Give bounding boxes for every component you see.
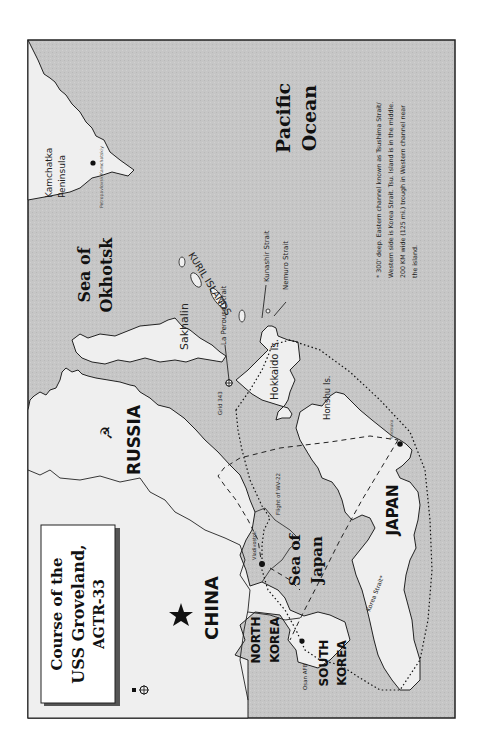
title-line-2: USS Groveland, xyxy=(69,544,88,683)
title-line-1: Course of the xyxy=(48,557,66,670)
label-sea-of-okhotsk-2: Okhotsk xyxy=(97,237,116,313)
label-grid-343: Grid 343 xyxy=(217,391,223,415)
label-osan-afb: Osan AFB xyxy=(302,663,308,690)
label-pacific-ocean-2: Ocean xyxy=(298,85,320,152)
label-kamchatka-2: Peninsula xyxy=(57,155,67,198)
label-honshu: Honshu Is. xyxy=(322,375,332,420)
footnote-line-4: the island. xyxy=(411,245,418,278)
label-south-korea-1: SOUTH xyxy=(317,640,331,687)
label-hokkaido: Hokkaido Is. xyxy=(269,339,280,400)
label-pacific-ocean-1: Pacific xyxy=(272,83,294,153)
label-north-korea-1: NORTH xyxy=(249,616,263,663)
label-vladivostok: Vladivostok xyxy=(251,531,257,560)
title-line-3: AGTR-33 xyxy=(91,579,107,650)
yokosuka-dot xyxy=(397,441,403,447)
label-sea-of-okhotsk-1: Sea of xyxy=(75,246,94,302)
label-kamchatka-1: Kamchatka xyxy=(44,148,54,198)
label-sea-of-japan-1: Sea of xyxy=(286,533,304,586)
label-north-korea-2: KOREA xyxy=(268,616,282,662)
label-sea-of-japan-2: Japan xyxy=(308,536,326,586)
vladivostok-dot xyxy=(259,561,265,567)
footnote-line-1: * 300' deep. Eastern channel known as Ts… xyxy=(375,102,383,278)
label-nemuro-strait: Nemuro Strait xyxy=(282,241,290,290)
label-kunashir-strait: Kunashir Strait xyxy=(263,230,271,282)
label-china: CHINA xyxy=(201,576,222,640)
hammer-sickle-icon: ☭ xyxy=(97,426,116,440)
label-flight-wv22: Flight of WV-22 xyxy=(275,473,282,515)
label-south-korea-2: KOREA xyxy=(335,639,349,685)
footnote-line-2: Western side is Korea Strait. Tsu. Islan… xyxy=(387,102,394,278)
label-sakhalin: Sakhalin xyxy=(178,303,191,350)
label-japan: JAPAN xyxy=(384,485,402,537)
label-yokosuka: Yokosuka xyxy=(389,419,394,441)
label-petropavlovsk: Petropavlovsk-Kamchatskiy xyxy=(99,146,104,208)
label-russia: RUSSIA xyxy=(124,404,144,475)
map: ☭ Course of the USS Groveland, AGTR-33 R… xyxy=(0,0,479,748)
petropavlovsk-dot xyxy=(90,160,95,165)
label-la-perouse-strait: La Perouse Strait xyxy=(220,285,228,345)
osan-dot xyxy=(299,638,304,643)
footnote-line-3: 200 KM wide (125 mi.) trough in Western … xyxy=(399,105,407,278)
